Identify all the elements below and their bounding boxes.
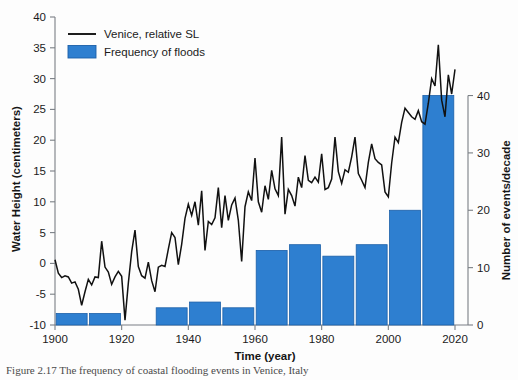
figure-caption: Figure 2.17 The frequency of coastal flo…	[6, 364, 512, 376]
left-axis: -10-50510152025303540	[29, 11, 55, 331]
flood-frequency-bar	[423, 96, 454, 325]
x-axis: 1900192019401960198020002020	[42, 325, 468, 345]
y-tick-label: -5	[36, 288, 46, 300]
x-tick-label: 1940	[176, 333, 202, 345]
y2-tick-label: 10	[477, 262, 490, 274]
flood-frequency-bar	[223, 308, 254, 325]
sea-level-flood-frequency-chart: -10-50510152025303540 010203040 19001920…	[0, 0, 518, 362]
x-tick-label: 1920	[109, 333, 135, 345]
legend-item-label: Venice, relative SL	[104, 28, 200, 40]
x-tick-label: 2000	[376, 333, 402, 345]
chart-legend: Venice, relative SLFrequency of floods	[68, 28, 205, 58]
y2-tick-label: 30	[477, 147, 490, 159]
y-tick-label: 15	[33, 165, 46, 177]
flood-frequency-bar	[356, 245, 387, 325]
y-tick-label: 35	[33, 42, 46, 54]
y-tick-label: 10	[33, 196, 46, 208]
y-tick-label: 40	[33, 11, 46, 23]
legend-item-label: Frequency of floods	[104, 46, 205, 58]
flood-frequency-bar	[390, 210, 421, 325]
y-tick-label: 30	[33, 73, 46, 85]
legend-square-marker-icon	[68, 46, 96, 59]
flood-frequency-bar	[56, 314, 87, 325]
flood-frequency-bar	[290, 245, 321, 325]
x-tick-label: 1960	[242, 333, 268, 345]
y2-tick-label: 0	[477, 319, 483, 331]
x-tick-label: 1900	[42, 333, 68, 345]
x-tick-label: 1980	[309, 333, 335, 345]
flood-frequency-bar	[156, 308, 187, 325]
y2-axis-title: Number of events/decade	[500, 140, 512, 280]
y-tick-label: 20	[33, 134, 46, 146]
y2-tick-label: 20	[477, 204, 490, 216]
x-tick-label: 2020	[442, 333, 468, 345]
flood-frequency-bar	[256, 250, 287, 325]
flood-frequency-bar	[190, 302, 221, 325]
flood-frequency-bar	[323, 256, 354, 325]
y-tick-label: -10	[29, 319, 46, 331]
figure-container: -10-50510152025303540 010203040 19001920…	[0, 0, 518, 380]
y-tick-label: 25	[33, 103, 46, 115]
y-tick-label: 5	[40, 227, 46, 239]
right-axis: 010203040	[468, 90, 490, 331]
y2-tick-label: 40	[477, 90, 490, 102]
x-axis-title: Time (year)	[234, 350, 295, 362]
y-tick-label: 0	[40, 257, 46, 269]
flood-frequency-bars	[56, 96, 454, 325]
y-axis-title: Water Height (centimeters)	[10, 106, 22, 252]
flood-frequency-bar	[90, 314, 121, 325]
